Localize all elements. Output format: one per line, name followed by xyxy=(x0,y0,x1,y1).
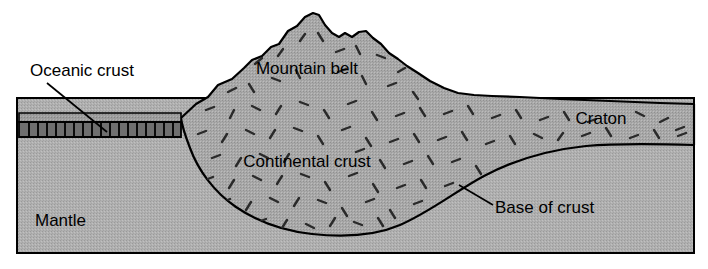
oceanic-crust-region xyxy=(19,113,181,137)
label-craton: Craton xyxy=(575,109,626,128)
label-mountain-belt: Mountain belt xyxy=(256,59,358,78)
oceanic-crust-upper-band xyxy=(19,113,181,122)
oceanic-crust-hatched-band xyxy=(19,122,181,137)
label-base-of-crust: Base of crust xyxy=(495,198,594,217)
label-oceanic-crust: Oceanic crust xyxy=(30,61,134,80)
geologic-cross-section-diagram: Oceanic crust Mountain belt Craton Conti… xyxy=(0,0,708,269)
label-continental-crust: Continental crust xyxy=(243,152,371,171)
cross-section-svg: Oceanic crust Mountain belt Craton Conti… xyxy=(0,0,708,269)
label-mantle: Mantle xyxy=(35,211,86,230)
